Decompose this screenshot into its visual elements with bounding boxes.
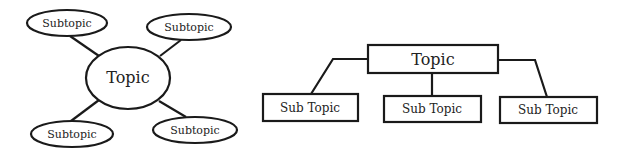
subtopic-node-bottom-right: Subtopic (153, 117, 237, 143)
topic-node-center: Topic (86, 47, 170, 109)
subtopic-node-top-left: Subtopic (27, 10, 107, 36)
subtopic-label: Subtopic (42, 17, 91, 30)
subtopic-label: Sub Topic (518, 103, 578, 117)
topic-label: Topic (106, 68, 149, 87)
connector-topic-to-subtopic-bottom-left (71, 100, 99, 121)
subtopic-node-top-right: Subtopic (147, 14, 231, 40)
subtopic-box-left: Sub Topic (263, 94, 358, 121)
hierarchy-diagram: Topic Sub Topic Sub Topic Sub Topic (263, 45, 597, 123)
connector-topic-to-subtopic-right (498, 60, 547, 97)
connector-topic-to-subtopic-left (311, 59, 368, 94)
connector-topic-to-subtopic-top-right (160, 40, 181, 56)
subtopic-label: Subtopic (164, 21, 213, 34)
topic-label: Topic (411, 50, 454, 69)
diagram-canvas: Subtopic Subtopic Subtopic Subtopic Topi… (0, 0, 620, 155)
connector-topic-to-subtopic-top-left (70, 36, 99, 56)
subtopic-node-bottom-left: Subtopic (31, 121, 113, 147)
web-diagram: Subtopic Subtopic Subtopic Subtopic Topi… (27, 10, 237, 147)
subtopic-box-middle: Sub Topic (384, 96, 481, 122)
connector-topic-to-subtopic-bottom-right (159, 101, 186, 117)
subtopic-label: Sub Topic (402, 102, 462, 116)
topic-box: Topic (368, 45, 498, 73)
subtopic-label: Sub Topic (280, 101, 340, 115)
subtopic-label: Subtopic (47, 128, 96, 141)
subtopic-box-right: Sub Topic (500, 97, 597, 123)
subtopic-label: Subtopic (170, 124, 219, 137)
